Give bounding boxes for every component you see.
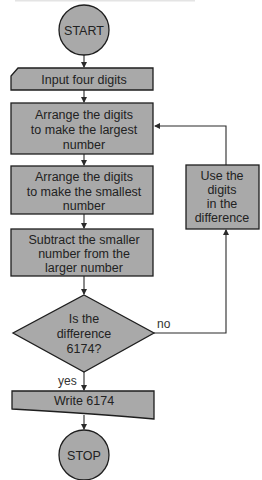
start-node: START (59, 5, 109, 55)
subtract-label-line-3: larger number (45, 261, 123, 275)
input-node: Input four digits (11, 68, 153, 90)
smallest-label-line-3: number (63, 199, 105, 213)
write-label: Write 6174 (54, 394, 114, 408)
smallest-label-line-2: to make the smallest (27, 185, 142, 199)
largest-label-line-2: to make the largest (31, 123, 138, 137)
start-label: START (64, 24, 104, 38)
largest-node: Arrange the digits to make the largest n… (11, 103, 153, 154)
write-node: Write 6174 (12, 391, 154, 419)
decision-node: Is the difference 6174? (13, 295, 154, 372)
largest-label-line-1: Arrange the digits (35, 108, 133, 122)
use-digits-label-line-4: difference (195, 211, 250, 225)
stop-label: STOP (67, 449, 101, 463)
edge-label-yes: yes (58, 374, 77, 388)
use-digits-label-line-2: digits (207, 183, 236, 197)
subtract-label-line-1: Subtract the smaller (28, 233, 139, 247)
smallest-label-line-1: Arrange the digits (35, 170, 133, 184)
smallest-node: Arrange the digits to make the smallest … (11, 166, 153, 214)
input-label: Input four digits (41, 73, 126, 87)
edge-usedigits-largest (155, 126, 226, 165)
use-digits-label-line-1: Use the (200, 169, 243, 183)
edge-label-no: no (157, 317, 171, 331)
use-digits-node: Use the digits in the difference (186, 165, 259, 229)
decision-label-line-1: Is the (69, 312, 100, 326)
decision-label-line-2: difference (57, 327, 112, 341)
decision-label-line-3: 6174? (67, 342, 102, 356)
subtract-node: Subtract the smaller number from the lar… (11, 229, 153, 276)
stop-node: STOP (59, 430, 109, 480)
clipped-caption-strip (15, 0, 195, 2)
largest-label-line-3: number (63, 138, 105, 152)
flowchart: START Input four digits Arrange the digi… (0, 0, 262, 480)
use-digits-label-line-3: in the (207, 197, 238, 211)
subtract-label-line-2: number from the (38, 247, 130, 261)
